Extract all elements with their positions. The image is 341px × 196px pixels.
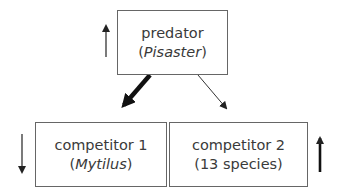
- competitor1-node: competitor 1 (Mytilus): [35, 122, 167, 187]
- predator-node: predator (Pisaster): [117, 10, 228, 75]
- paren-close: ): [127, 156, 133, 172]
- predator-species: (Pisaster): [138, 43, 207, 62]
- paren-close: ): [201, 44, 207, 60]
- edge-predator-competitor1-thick: [124, 75, 150, 105]
- predator-label: predator: [141, 24, 203, 43]
- predator-species-name: Pisaster: [144, 44, 201, 60]
- competitor1-species: (Mytilus): [70, 155, 133, 174]
- competitor2-label: competitor 2: [192, 136, 285, 155]
- edge-predator-competitor2-thin: [198, 75, 226, 108]
- competitor1-label: competitor 1: [54, 136, 147, 155]
- competitor2-species: (13 species): [194, 155, 283, 174]
- competitor2-node: competitor 2 (13 species): [169, 122, 308, 187]
- competitor1-species-name: Mytilus: [75, 156, 127, 172]
